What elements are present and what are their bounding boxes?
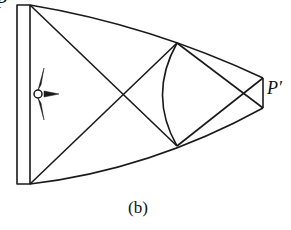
point-p-prime-label: P′: [267, 78, 282, 99]
left-plate: [17, 5, 30, 184]
diagonal-up: [30, 43, 177, 184]
ray-lower: [177, 78, 263, 146]
ray-upper: [177, 43, 263, 108]
figure-caption: (b): [128, 198, 148, 218]
mirror-diagram: [0, 0, 291, 230]
top-curve: [30, 5, 263, 78]
inner-arc: [163, 43, 178, 146]
bottom-curve: [30, 108, 263, 184]
diagonal-down: [30, 5, 177, 146]
point-p-label: P: [0, 0, 7, 13]
figure-canvas: P P′ (b): [0, 0, 291, 230]
compass-star-icon: [34, 68, 59, 120]
